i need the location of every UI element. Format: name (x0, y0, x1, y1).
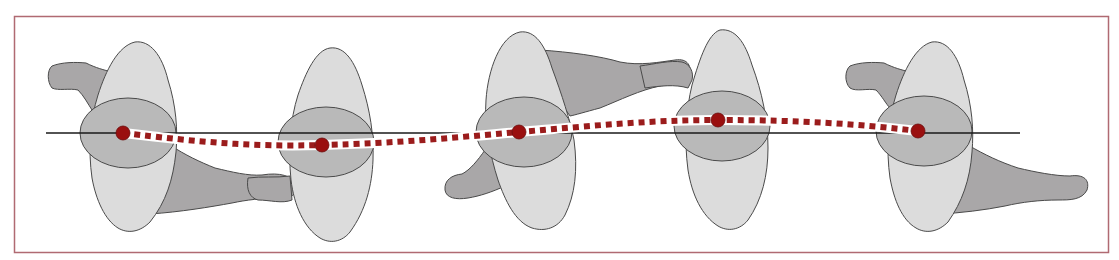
center-dot-1 (116, 126, 130, 140)
walking-sway-diagram (0, 0, 1119, 260)
arm-shape (247, 176, 292, 202)
center-dot-5 (911, 124, 925, 138)
center-dot-3 (512, 125, 526, 139)
center-dot-4 (711, 113, 725, 127)
arm-shape (640, 61, 693, 88)
center-dot-2 (315, 138, 329, 152)
diagram-canvas (0, 0, 1119, 260)
